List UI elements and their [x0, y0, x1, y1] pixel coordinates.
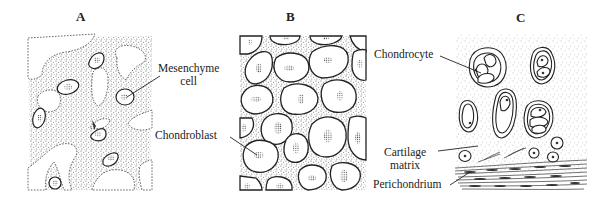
panel-b-drawing	[230, 36, 366, 190]
label-chondrocyte-text: Chondrocyte	[374, 48, 433, 61]
label-mesenchyme-line1: Mesenchyme	[158, 62, 219, 75]
label-chondroblast: Chondroblast	[155, 129, 217, 142]
label-cartilage-matrix: Cartilage matrix	[384, 146, 426, 172]
label-cartilage-line1: Cartilage	[384, 146, 426, 159]
label-chondroblast-text: Chondroblast	[155, 129, 217, 142]
label-mesenchyme-cell: Mesenchyme cell	[158, 62, 219, 88]
cartilage-development-figure: A B C Mesenchyme cell Chondroblast Chond…	[0, 0, 605, 204]
panel-b-title: B	[286, 9, 295, 25]
label-perichondrium-text: Perichondrium	[373, 178, 441, 191]
figure-drawing	[0, 0, 605, 204]
panel-a-title: A	[76, 9, 85, 25]
panel-a-drawing	[28, 34, 160, 190]
panel-c-drawing	[438, 34, 587, 189]
label-mesenchyme-line2: cell	[158, 75, 219, 88]
label-chondrocyte: Chondrocyte	[374, 48, 433, 61]
label-perichondrium: Perichondrium	[373, 178, 441, 191]
panel-c-title: C	[516, 10, 525, 26]
label-cartilage-line2: matrix	[384, 159, 426, 172]
